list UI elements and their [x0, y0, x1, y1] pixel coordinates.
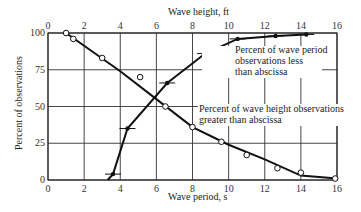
- data-point: [163, 104, 169, 110]
- x-tick-label: 4: [118, 183, 123, 194]
- x-tick-label: 2: [82, 183, 87, 194]
- x2-tick-label: 12: [260, 20, 270, 31]
- x-axis-ticks-top: 0246810121416: [46, 20, 343, 31]
- x-tick-label: 12: [260, 183, 270, 194]
- annotation-period-line3: than abscissa: [235, 66, 288, 77]
- data-point: [219, 139, 225, 145]
- x2-tick-label: 8: [190, 20, 195, 31]
- data-point: [235, 37, 239, 41]
- x2-tick-label: 4: [118, 20, 123, 31]
- data-point: [165, 81, 169, 85]
- y-tick-label: 50: [35, 101, 45, 112]
- y-tick-label: 75: [35, 64, 45, 75]
- y-axis-label: Percent of observations: [13, 56, 24, 150]
- x-tick-label: 6: [154, 183, 159, 194]
- data-point: [137, 74, 143, 80]
- data-point: [332, 176, 338, 182]
- wave-statistics-chart: 0246810121416 0246810121416 0255075100 W…: [0, 0, 361, 212]
- annotation-period-line2: observations less: [235, 55, 303, 66]
- data-point: [190, 124, 196, 130]
- annotation-height-line1: Percent of wave height observations: [199, 103, 344, 114]
- bottom-axis-label: Wave period, s: [168, 191, 228, 202]
- x2-tick-label: 6: [154, 20, 159, 31]
- data-point: [63, 30, 69, 36]
- top-axis-label: Wave height, ft: [168, 6, 229, 17]
- x2-tick-label: 16: [332, 20, 342, 31]
- data-point: [298, 170, 304, 176]
- x-tick-label: 16: [332, 183, 342, 194]
- y-axis-ticks: 0255075100: [30, 27, 45, 185]
- annotation-period-line1: Percent of wave period: [235, 44, 327, 55]
- x-tick-label: 0: [46, 183, 51, 194]
- annotation-height-line2: greater than abscissa: [199, 114, 282, 125]
- y-tick-label: 0: [40, 174, 45, 185]
- y-tick-label: 25: [35, 137, 45, 148]
- y-tick-label: 100: [30, 27, 45, 38]
- x2-tick-label: 2: [82, 20, 87, 31]
- data-point: [273, 34, 277, 38]
- data-point: [275, 165, 281, 171]
- x2-tick-label: 0: [46, 20, 51, 31]
- data-point: [244, 152, 250, 158]
- x-tick-label: 14: [296, 183, 306, 194]
- data-point: [304, 32, 308, 36]
- data-point: [111, 172, 115, 176]
- x2-tick-label: 14: [296, 20, 306, 31]
- data-point: [99, 55, 105, 61]
- data-point: [70, 36, 76, 42]
- x2-tick-label: 10: [224, 20, 234, 31]
- data-point: [125, 126, 129, 130]
